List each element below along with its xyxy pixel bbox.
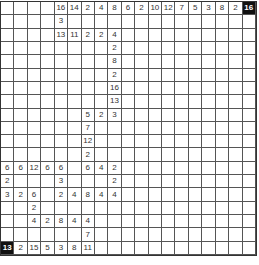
grid-cell[interactable]	[162, 42, 175, 55]
grid-cell[interactable]	[1, 122, 14, 135]
grid-cell[interactable]	[216, 42, 229, 55]
grid-cell[interactable]: 2	[1, 175, 14, 188]
grid-cell[interactable]	[68, 42, 81, 55]
grid-cell[interactable]	[41, 42, 54, 55]
grid-cell[interactable]	[216, 55, 229, 68]
grid-cell[interactable]	[229, 29, 242, 42]
grid-cell[interactable]	[175, 55, 188, 68]
grid-cell[interactable]: 8	[108, 55, 121, 68]
grid-cell[interactable]	[135, 109, 148, 122]
grid-cell[interactable]	[28, 69, 41, 82]
grid-cell[interactable]: 4	[108, 29, 121, 42]
grid-cell[interactable]	[162, 109, 175, 122]
grid-cell[interactable]	[216, 69, 229, 82]
grid-cell[interactable]	[243, 95, 256, 108]
grid-cell[interactable]	[28, 82, 41, 95]
grid-cell[interactable]	[189, 82, 202, 95]
grid-cell[interactable]	[41, 69, 54, 82]
grid-cell[interactable]	[14, 175, 27, 188]
grid-cell[interactable]	[28, 42, 41, 55]
grid-cell[interactable]	[149, 109, 162, 122]
grid-cell[interactable]: 2	[108, 162, 121, 175]
grid-cell[interactable]: 8	[55, 215, 68, 228]
grid-cell[interactable]	[229, 15, 242, 28]
grid-cell[interactable]	[55, 109, 68, 122]
grid-cell[interactable]	[135, 82, 148, 95]
grid-cell[interactable]	[175, 188, 188, 201]
grid-cell[interactable]	[162, 148, 175, 161]
grid-cell[interactable]	[41, 228, 54, 241]
grid-cell[interactable]	[1, 148, 14, 161]
grid-cell[interactable]	[122, 148, 135, 161]
grid-cell[interactable]	[175, 202, 188, 215]
grid-cell[interactable]	[202, 15, 215, 28]
grid-cell[interactable]	[68, 135, 81, 148]
grid-cell[interactable]	[135, 42, 148, 55]
grid-cell[interactable]	[1, 42, 14, 55]
grid-cell[interactable]	[135, 188, 148, 201]
grid-cell[interactable]	[14, 135, 27, 148]
grid-cell[interactable]	[68, 69, 81, 82]
grid-cell[interactable]	[55, 82, 68, 95]
grid-cell[interactable]	[122, 82, 135, 95]
grid-cell[interactable]	[189, 228, 202, 241]
grid-cell[interactable]	[28, 95, 41, 108]
grid-cell[interactable]	[149, 82, 162, 95]
grid-cell[interactable]: 6	[28, 188, 41, 201]
grid-cell[interactable]	[95, 175, 108, 188]
grid-cell[interactable]	[229, 95, 242, 108]
grid-cell[interactable]	[122, 135, 135, 148]
grid-cell[interactable]	[122, 109, 135, 122]
grid-cell[interactable]	[55, 135, 68, 148]
grid-cell[interactable]	[82, 69, 95, 82]
grid-cell[interactable]	[68, 15, 81, 28]
grid-cell[interactable]	[41, 175, 54, 188]
grid-cell[interactable]	[175, 162, 188, 175]
grid-cell[interactable]: 13	[55, 29, 68, 42]
grid-cell[interactable]: 2	[108, 42, 121, 55]
grid-cell[interactable]	[175, 228, 188, 241]
grid-cell[interactable]	[28, 175, 41, 188]
grid-cell[interactable]	[108, 122, 121, 135]
grid-cell[interactable]	[55, 95, 68, 108]
grid-cell[interactable]: 12	[162, 2, 175, 15]
grid-cell[interactable]: 2	[135, 2, 148, 15]
grid-cell[interactable]: 2	[108, 175, 121, 188]
grid-cell[interactable]	[68, 55, 81, 68]
grid-cell[interactable]: 6	[1, 162, 14, 175]
grid-cell[interactable]: 11	[82, 242, 95, 255]
grid-cell[interactable]: 4	[28, 215, 41, 228]
grid-cell[interactable]	[135, 148, 148, 161]
grid-cell[interactable]	[41, 188, 54, 201]
grid-cell[interactable]	[68, 122, 81, 135]
grid-cell[interactable]	[28, 15, 41, 28]
grid-cell[interactable]: 2	[95, 29, 108, 42]
grid-cell[interactable]	[189, 122, 202, 135]
grid-cell[interactable]	[55, 55, 68, 68]
grid-cell[interactable]: 4	[95, 162, 108, 175]
grid-cell[interactable]	[229, 215, 242, 228]
grid-cell[interactable]	[82, 175, 95, 188]
grid-cell[interactable]: 5	[41, 242, 54, 255]
grid-cell[interactable]: 3	[108, 109, 121, 122]
grid-cell[interactable]	[1, 15, 14, 28]
grid-cell[interactable]: 10	[149, 2, 162, 15]
grid-cell[interactable]	[14, 109, 27, 122]
grid-cell[interactable]	[68, 175, 81, 188]
grid-cell[interactable]	[162, 215, 175, 228]
grid-cell[interactable]	[28, 55, 41, 68]
grid-cell[interactable]: 4	[108, 188, 121, 201]
grid-cell[interactable]: 4	[68, 188, 81, 201]
grid-cell[interactable]: 2	[14, 242, 27, 255]
grid-cell[interactable]: 2	[82, 2, 95, 15]
grid-cell[interactable]: 4	[95, 188, 108, 201]
grid-cell[interactable]	[175, 148, 188, 161]
grid-cell[interactable]	[189, 215, 202, 228]
grid-cell[interactable]	[216, 148, 229, 161]
grid-cell[interactable]	[149, 135, 162, 148]
grid-cell[interactable]	[41, 122, 54, 135]
grid-cell[interactable]	[189, 135, 202, 148]
grid-cell[interactable]	[68, 228, 81, 241]
grid-cell[interactable]	[14, 122, 27, 135]
grid-cell[interactable]	[229, 175, 242, 188]
